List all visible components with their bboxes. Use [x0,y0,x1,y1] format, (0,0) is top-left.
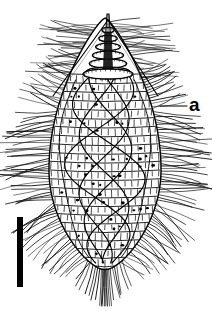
organism-illustration [0,0,212,311]
scale-bar [17,217,23,287]
figure-root: a [0,0,212,311]
label-a: a [189,95,200,114]
apical-tip [106,14,110,32]
